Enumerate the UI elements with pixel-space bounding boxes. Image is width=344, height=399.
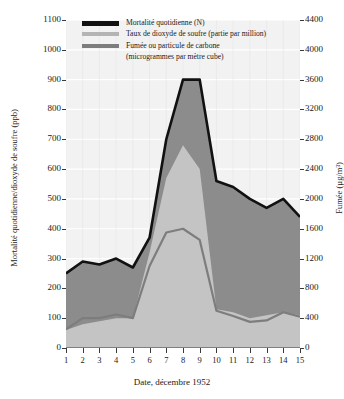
y-axis-left-tick-800: 800 <box>48 103 62 113</box>
x-axis-tickmark <box>216 348 217 353</box>
y-axis-right-tickmark <box>300 50 304 51</box>
y-axis-right-tickmark <box>300 109 304 110</box>
y-axis-right-tick-400: 400 <box>305 312 319 322</box>
x-axis-tickmark <box>150 348 151 353</box>
x-axis-title: Date, décembre 1952 <box>0 377 344 387</box>
legend-label-so2: Taux de dioxyde de soufre (partie par mi… <box>126 29 266 39</box>
legend-label-mortality: Mortalité quotidienne (N) <box>126 18 204 28</box>
chart-legend: Mortalité quotidienne (N) Taux de dioxyd… <box>82 18 266 63</box>
y-axis-left-tick-700: 700 <box>48 133 62 143</box>
y-axis-right-tick-2400: 2400 <box>305 163 323 173</box>
x-axis-tickmark <box>267 348 268 353</box>
x-axis-tickmark <box>133 348 134 353</box>
legend-item-mortality: Mortalité quotidienne (N) <box>82 18 266 28</box>
x-axis-tickmark <box>116 348 117 353</box>
x-axis-tickmark <box>83 348 84 353</box>
y-axis-right-tick-0: 0 <box>305 342 310 352</box>
x-axis-tickmark <box>300 348 301 353</box>
y-axis-left-tick-900: 900 <box>48 74 62 84</box>
y-axis-right-tickmark <box>300 199 304 200</box>
x-axis-tickmark <box>66 348 67 353</box>
x-axis-tickmark <box>200 348 201 353</box>
plot-area <box>66 20 300 348</box>
y-axis-left-tick-0: 0 <box>57 342 62 352</box>
x-axis-tickmark <box>166 348 167 353</box>
legend-swatch-smoke <box>82 44 119 48</box>
y-axis-right-tickmark <box>300 20 304 21</box>
y-axis-left-tick-100: 100 <box>48 312 62 322</box>
y-axis-left-tick-1000: 1000 <box>43 44 61 54</box>
x-axis-tickmark <box>250 348 251 353</box>
y-axis-right-tick-2800: 2800 <box>305 133 323 143</box>
x-axis-tickmark <box>99 348 100 353</box>
y-axis-right-tickmark <box>300 318 304 319</box>
legend-item-smoke: Fumée ou particule de carbone <box>82 41 266 51</box>
y-axis-right-tickmark <box>300 259 304 260</box>
y-axis-left-tick-400: 400 <box>48 223 62 233</box>
y-axis-right-tickmark <box>300 139 304 140</box>
y-axis-right-title: Fumée (µg/m³) <box>334 88 344 288</box>
y-axis-left-tick-500: 500 <box>48 193 62 203</box>
y-axis-right-tick-800: 800 <box>305 282 319 292</box>
y-axis-right-tickmark <box>300 169 304 170</box>
y-axis-left-tick-300: 300 <box>48 253 62 263</box>
y-axis-right-tickmark <box>300 229 304 230</box>
y-axis-right-tick-3200: 3200 <box>305 103 323 113</box>
y-axis-left-title: Mortalité quotidienne/dioxyde de soufre … <box>9 88 19 288</box>
legend-label-smoke: Fumée ou particule de carbone <box>126 41 220 51</box>
y-axis-left-tick-1100: 1100 <box>43 14 61 24</box>
y-axis-left-tick-200: 200 <box>48 282 62 292</box>
y-axis-right-tick-2000: 2000 <box>305 193 323 203</box>
y-axis-right-tick-4400: 4400 <box>305 14 323 24</box>
legend-swatch-so2 <box>82 32 119 36</box>
x-axis-tickmark <box>183 348 184 353</box>
legend-swatch-mortality <box>82 21 119 26</box>
y-axis-left-tick-600: 600 <box>48 163 62 173</box>
x-axis-tickmark <box>233 348 234 353</box>
y-axis-right-tick-3600: 3600 <box>305 74 323 84</box>
y-axis-right-tickmark <box>300 80 304 81</box>
y-axis-right-tickmark <box>300 288 304 289</box>
y-axis-right-tick-4000: 4000 <box>305 44 323 54</box>
x-axis-tick-15: 15 <box>290 355 310 365</box>
y-axis-right-tick-1600: 1600 <box>305 223 323 233</box>
y-axis-right-tick-1200: 1200 <box>305 253 323 263</box>
chart-container: Mortalité quotidienne/dioxyde de soufre … <box>0 0 344 399</box>
x-axis-tickmark <box>283 348 284 353</box>
legend-item-so2: Taux de dioxyde de soufre (partie par mi… <box>82 29 266 39</box>
legend-label-smoke-sub: (microgrammes par mètre cube) <box>126 52 266 62</box>
